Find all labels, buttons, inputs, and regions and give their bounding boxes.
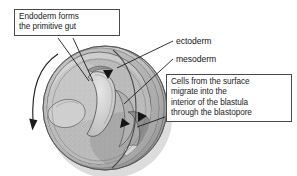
- callout-cells-migrate-blastopore: Cells from the surface migrate into the …: [166, 74, 292, 122]
- label-ectoderm: ectoderm: [176, 36, 211, 46]
- label-mesoderm: mesoderm: [176, 54, 216, 64]
- callout-endoderm-primitive-gut: Endoderm forms the primitive gut: [14, 9, 120, 36]
- gastrulation-figure: Endoderm forms the primitive gut ectoder…: [0, 0, 297, 176]
